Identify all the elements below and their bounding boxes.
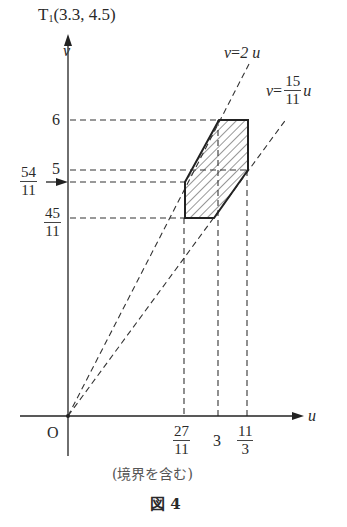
feasible-region — [185, 120, 248, 218]
frac-num: 45 — [44, 206, 61, 223]
line2-fraction: 15 11 — [284, 74, 301, 107]
frac-den: 11 — [45, 223, 59, 239]
u-tick-27-11: 27 11 — [173, 424, 190, 457]
line2-label: v= 15 11 u — [266, 74, 311, 107]
point-label: T — [38, 5, 48, 24]
line-v-15-11u — [68, 118, 287, 416]
pointer-arrow-icon — [56, 178, 68, 186]
guide-lines — [68, 64, 287, 416]
frac-den: 11 — [174, 441, 188, 457]
origin-label: O — [47, 425, 59, 441]
v-tick-5: 5 — [52, 161, 60, 177]
line2-lhs: v — [266, 83, 273, 99]
line2-frac-num: 15 — [284, 74, 301, 91]
v-tick-45-11: 45 11 — [44, 206, 61, 239]
u-tick-11-3: 11 3 — [237, 424, 253, 457]
point-title: T1(3.3, 4.5) — [38, 6, 116, 24]
origin-dot — [66, 414, 70, 418]
point-coords: (3.3, 4.5) — [53, 5, 115, 24]
line2-frac-den: 11 — [285, 91, 299, 107]
axes — [20, 40, 298, 456]
v-tick-6: 6 — [52, 112, 60, 128]
frac-num: 27 — [173, 424, 190, 441]
v-axis-label: v — [63, 43, 70, 59]
frac-num: 11 — [237, 424, 253, 441]
v-tick-54-11: 54 11 — [20, 165, 37, 198]
line2-eq: = — [273, 83, 282, 99]
u-axis-arrow-icon — [292, 412, 304, 420]
line1-rhs: 2 u — [240, 44, 260, 61]
line2-var: u — [303, 83, 311, 99]
u-tick-3: 3 — [213, 433, 221, 449]
frac-den: 3 — [241, 441, 249, 457]
boundary-note: (境界を含む) — [112, 467, 193, 481]
frac-den: 11 — [21, 182, 35, 198]
figure-label: 図 4 — [150, 497, 181, 512]
line1-eq: = — [231, 44, 240, 61]
u-axis-label: u — [308, 408, 316, 424]
line-v-2u — [68, 64, 249, 416]
line1-label: v=2 u — [224, 45, 260, 61]
frac-num: 54 — [20, 165, 37, 182]
